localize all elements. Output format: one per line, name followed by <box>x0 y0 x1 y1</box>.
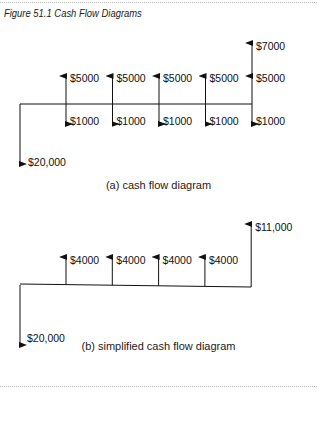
inflow-label: $5000 <box>117 72 146 84</box>
inflow-label: $5000 <box>70 72 99 84</box>
inflow-label: $5000 <box>256 72 285 84</box>
initial-outflow-label: $20,000 <box>28 156 66 168</box>
cash-flow-diagrams: $20,000$5000$1000$5000$1000$5000$1000$50… <box>0 0 317 421</box>
outflow-label: $1000 <box>117 115 146 127</box>
inflow-label: $4000 <box>163 254 192 266</box>
outflow-label: $1000 <box>70 115 99 127</box>
outflow-label: $1000 <box>210 115 239 127</box>
inflow-label: $5000 <box>163 72 192 84</box>
inflow-label: $4000 <box>209 254 238 266</box>
inflow-label: $11,000 <box>255 221 292 233</box>
inflow-label: $5000 <box>210 72 239 84</box>
inflow-label: $4000 <box>70 254 99 266</box>
diagram-a: $20,000$5000$1000$5000$1000$5000$1000$50… <box>20 40 285 168</box>
time-axis <box>20 284 251 287</box>
bottom-divider <box>0 386 317 387</box>
extra-inflow-label: $7000 <box>256 40 285 52</box>
caption-b: (b) simplified cash flow diagram <box>0 340 317 352</box>
outflow-label: $1000 <box>256 115 285 127</box>
caption-a: (a) cash flow diagram <box>0 179 317 191</box>
inflow-label: $4000 <box>116 254 145 266</box>
diagram-b: $20,000$4000$4000$4000$4000$11,000 <box>20 221 293 345</box>
outflow-label: $1000 <box>163 115 192 127</box>
